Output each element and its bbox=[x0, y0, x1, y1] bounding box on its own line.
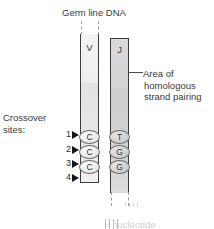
crossover-site-3-number: 3 bbox=[66, 159, 71, 168]
v-segment-label: V bbox=[80, 43, 99, 53]
crossover-label-line-1: Crossover bbox=[3, 112, 46, 123]
triangle-right-icon bbox=[72, 146, 79, 154]
bottom-legend-caption: = nucleotide bbox=[104, 219, 214, 229]
clipped-artifact-icon bbox=[124, 203, 140, 207]
crossover-sites-label: Crossover sites: bbox=[3, 112, 61, 135]
triangle-right-icon bbox=[72, 174, 79, 182]
crossover-site-4-number: 4 bbox=[66, 173, 71, 182]
germline-dna-diagram: Germ line DNA V J Area of homologous str… bbox=[0, 0, 214, 229]
homologous-pairing-annotation: Area of homologous strand pairing bbox=[143, 68, 213, 103]
crossover-site-4: 4 bbox=[55, 172, 79, 183]
triangle-right-icon bbox=[72, 160, 79, 168]
nucleotide-v-3: C bbox=[79, 160, 100, 174]
nucleotide-j-3: G bbox=[109, 160, 130, 174]
annotation-line-3: strand pairing bbox=[144, 91, 213, 103]
annotation-line-1: Area of bbox=[143, 68, 213, 80]
crossover-site-2-number: 2 bbox=[66, 145, 71, 154]
crossover-site-3: 3 bbox=[55, 158, 79, 169]
crossover-label-line-2: sites: bbox=[3, 124, 25, 135]
nucleotide-j-1: T bbox=[109, 130, 130, 144]
nucleotide-v-2: C bbox=[79, 145, 100, 159]
crossover-site-1: 1 bbox=[55, 129, 79, 140]
annotation-line-2: homologous bbox=[144, 80, 213, 92]
triangle-right-icon bbox=[72, 131, 79, 139]
leader-line-icon bbox=[128, 72, 143, 73]
crossover-site-1-number: 1 bbox=[66, 130, 71, 139]
nucleotide-j-2: G bbox=[109, 145, 130, 159]
j-segment-label: J bbox=[110, 45, 129, 55]
page-title: Germ line DNA bbox=[62, 7, 162, 18]
nucleotide-v-1: C bbox=[79, 130, 100, 144]
crossover-site-2: 2 bbox=[55, 144, 79, 155]
v-segment-dashed-continuation-icon bbox=[80, 21, 99, 35]
